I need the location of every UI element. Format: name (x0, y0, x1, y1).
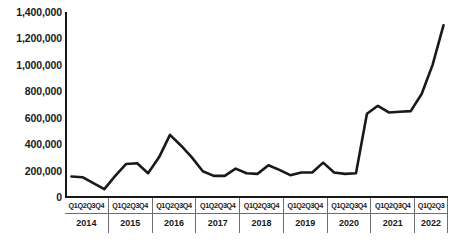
x-axis-year-group: Q1Q2Q3Q42018 (240, 198, 284, 233)
x-axis-quarter-label: Q1 (112, 202, 121, 209)
x-axis-year-label: 2022 (421, 219, 441, 228)
x-axis-quarter-label: Q4 (139, 202, 148, 209)
x-axis-quarter-row: Q1Q2Q3Q4 (284, 198, 327, 213)
x-axis-quarter-row: Q1Q2Q3Q4 (371, 198, 414, 213)
x-axis-quarter-row: Q1Q2Q3Q4 (153, 198, 196, 213)
x-axis-quarter-label: Q3 (218, 202, 227, 209)
series-polyline (71, 25, 443, 189)
x-axis-year-row: 2022 (415, 213, 447, 233)
x-axis-quarter-label: Q3 (174, 202, 183, 209)
x-axis-quarter-row: Q1Q2Q3Q4 (240, 198, 283, 213)
data-series-line (66, 12, 448, 197)
x-axis-quarter-label: Q2 (77, 202, 86, 209)
x-axis-year-row: 2017 (196, 213, 239, 233)
y-tick-label: 200,000 (0, 166, 62, 176)
x-axis-year-label: 2016 (164, 219, 184, 228)
line-chart: 1,400,0001,200,0001,000,000800,000600,00… (0, 0, 458, 247)
x-axis-quarter-label: Q4 (314, 202, 323, 209)
x-axis-year-group: Q1Q2Q3Q42021 (371, 198, 415, 233)
x-axis-quarter-label: Q3 (86, 202, 95, 209)
x-axis-year-row: 2014 (65, 213, 108, 233)
x-axis-year-group: Q1Q2Q3Q42019 (284, 198, 328, 233)
x-axis-year-label: 2018 (251, 219, 271, 228)
x-axis-quarter-row: Q1Q2Q3Q4 (196, 198, 239, 213)
x-axis-quarter-row: Q1Q2Q3Q4 (65, 198, 108, 213)
x-axis-year-row: 2021 (371, 213, 414, 233)
x-axis-quarter-label: Q4 (183, 202, 192, 209)
x-axis-year-group: Q1Q2Q3Q42016 (153, 198, 197, 233)
x-axis-quarter-label: Q3 (393, 202, 402, 209)
x-axis-quarter-label: Q3 (305, 202, 314, 209)
x-axis-year-row: 2016 (153, 213, 196, 233)
x-axis-year-group: Q1Q2Q3Q42014 (65, 198, 109, 233)
x-axis-year-row: 2020 (328, 213, 371, 233)
x-axis-year-group: Q1Q2Q3Q42015 (109, 198, 153, 233)
x-axis-year-label: 2015 (120, 219, 140, 228)
x-axis-year-row: 2015 (109, 213, 152, 233)
x-axis-year-group: Q1Q2Q3Q42020 (328, 198, 372, 233)
x-axis-year-label: 2020 (339, 219, 359, 228)
x-axis-quarter-label: Q1 (331, 202, 340, 209)
y-tick-label: 1,400,000 (0, 7, 62, 17)
y-axis-tick-labels: 1,400,0001,200,0001,000,000800,000600,00… (0, 0, 62, 210)
x-axis-quarter-row: Q1Q2Q3 (415, 198, 447, 213)
x-axis-year-label: 2021 (383, 219, 403, 228)
x-axis-quarter-label: Q2 (121, 202, 130, 209)
x-axis-quarter-label: Q2 (427, 202, 436, 209)
y-tick-label: 1,200,000 (0, 33, 62, 43)
x-axis-quarter-label: Q1 (200, 202, 209, 209)
x-axis-quarter-label: Q4 (270, 202, 279, 209)
x-axis-quarter-label: Q3 (130, 202, 139, 209)
x-axis-year-label: 2019 (295, 219, 315, 228)
x-axis-year-group: Q1Q2Q32022 (415, 198, 448, 233)
x-axis-quarter-label: Q3 (349, 202, 358, 209)
x-axis-quarter-label: Q2 (165, 202, 174, 209)
x-axis-quarter-label: Q4 (358, 202, 367, 209)
x-axis-quarter-label: Q1 (418, 202, 427, 209)
y-tick-label: 800,000 (0, 86, 62, 96)
x-axis-year-group: Q1Q2Q3Q42017 (196, 198, 240, 233)
x-axis-quarter-label: Q1 (375, 202, 384, 209)
x-axis-quarter-label: Q2 (209, 202, 218, 209)
x-axis-quarter-label: Q4 (95, 202, 104, 209)
x-axis-quarter-label: Q4 (227, 202, 236, 209)
x-axis-quarter-row: Q1Q2Q3Q4 (328, 198, 371, 213)
x-axis-quarter-label: Q3 (261, 202, 270, 209)
x-axis-quarter-label: Q1 (156, 202, 165, 209)
x-axis-year-row: 2019 (284, 213, 327, 233)
y-tick-label: 400,000 (0, 139, 62, 149)
x-axis-quarter-label: Q1 (244, 202, 253, 209)
x-axis-quarter-label: Q2 (340, 202, 349, 209)
x-axis-category-table: Q1Q2Q3Q42014Q1Q2Q3Q42015Q1Q2Q3Q42016Q1Q2… (65, 198, 448, 233)
y-tick-label: 1,000,000 (0, 60, 62, 70)
y-tick-label: 600,000 (0, 113, 62, 123)
x-axis-year-row: 2018 (240, 213, 283, 233)
x-axis-quarter-label: Q4 (402, 202, 411, 209)
x-axis-quarter-label: Q3 (435, 202, 444, 209)
x-axis-year-label: 2014 (76, 219, 96, 228)
x-axis-quarter-row: Q1Q2Q3Q4 (109, 198, 152, 213)
x-axis-year-label: 2017 (208, 219, 228, 228)
x-axis-quarter-label: Q1 (287, 202, 296, 209)
x-axis-quarter-label: Q2 (253, 202, 262, 209)
x-axis-quarter-label: Q1 (69, 202, 78, 209)
plot-area (66, 12, 448, 197)
x-axis-quarter-label: Q2 (296, 202, 305, 209)
x-axis-quarter-label: Q2 (384, 202, 393, 209)
y-tick-label: 0 (0, 192, 62, 202)
